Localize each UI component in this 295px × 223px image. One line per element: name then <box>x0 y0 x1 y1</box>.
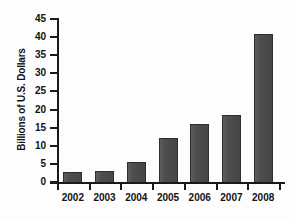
x-axis-tick-label: 2003 <box>88 192 122 203</box>
y-axis-tick <box>50 109 57 111</box>
y-axis-title: Billions of U.S. Dollars <box>16 25 27 175</box>
y-axis-tick-label: 0 <box>24 177 46 187</box>
x-axis-tick <box>57 184 59 190</box>
y-axis-tick-label: 20 <box>24 105 46 115</box>
x-axis-tick <box>120 184 122 190</box>
x-axis-tick <box>152 184 154 190</box>
bar <box>222 115 241 182</box>
x-axis-tick-label: 2007 <box>214 192 248 203</box>
y-axis-tick <box>50 72 57 74</box>
y-axis-tick-label: 35 <box>24 50 46 60</box>
bar <box>95 171 114 182</box>
x-axis-tick <box>279 184 281 190</box>
x-axis-tick-label: 2008 <box>246 192 280 203</box>
bar <box>254 34 273 182</box>
y-axis-tick <box>50 163 57 165</box>
y-axis-tick-label: 5 <box>24 159 46 169</box>
y-axis-tick-label: 40 <box>24 32 46 42</box>
x-axis-tick <box>216 184 218 190</box>
y-axis-line <box>57 18 59 183</box>
bar <box>159 138 178 182</box>
x-axis-tick-label: 2005 <box>151 192 185 203</box>
y-axis-tick <box>50 90 57 92</box>
x-axis-tick <box>247 184 249 190</box>
x-axis-tick <box>89 184 91 190</box>
y-axis-tick-label: 30 <box>24 68 46 78</box>
y-axis-tick <box>50 54 57 56</box>
y-axis-tick-label: 25 <box>24 86 46 96</box>
x-axis-tick <box>184 184 186 190</box>
bar-chart: Billions of U.S. Dollars 051015202530354… <box>0 0 295 223</box>
y-axis-tick-label: 45 <box>24 14 46 24</box>
x-axis-line <box>50 182 285 184</box>
bar <box>190 124 209 182</box>
y-axis-tick <box>50 181 57 183</box>
y-axis-tick <box>50 145 57 147</box>
y-axis-tick-label: 10 <box>24 141 46 151</box>
page-edge <box>0 219 295 223</box>
y-axis-tick-label: 15 <box>24 123 46 133</box>
x-axis-tick-label: 2006 <box>183 192 217 203</box>
x-axis-tick-label: 2004 <box>119 192 153 203</box>
y-axis-tick <box>50 127 57 129</box>
x-axis-tick-label: 2002 <box>56 192 90 203</box>
bar <box>63 172 82 182</box>
bar <box>127 162 146 182</box>
y-axis-tick <box>50 36 57 38</box>
y-axis-tick <box>50 18 57 20</box>
